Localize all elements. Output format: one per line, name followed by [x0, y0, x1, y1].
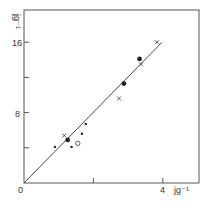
filled-circle-marker: [137, 57, 142, 62]
plot-frame: [24, 10, 199, 183]
dot-marker: [54, 146, 56, 148]
cross-marker: [139, 62, 143, 66]
origin-label: 0: [18, 185, 23, 195]
dot-marker: [85, 123, 87, 125]
x-tick-label-4: 4: [160, 185, 165, 195]
cross-marker: [62, 133, 66, 137]
x-axis-unit: jg⁻¹: [174, 185, 189, 195]
y-tick-label-16: 16: [12, 38, 22, 48]
cross-marker: [155, 40, 159, 44]
dot-marker: [70, 146, 72, 148]
data-points: [54, 40, 159, 148]
dot-marker: [81, 133, 83, 135]
filled-circle-marker: [122, 81, 127, 86]
open-circle-marker: [76, 141, 80, 145]
y-axis-unit: jg⁻¹: [12, 14, 22, 29]
cross-marker: [117, 97, 121, 101]
y-tick-label-8: 8: [15, 109, 20, 119]
filled-circle-marker: [65, 137, 70, 142]
scatter-plot: [0, 0, 209, 208]
